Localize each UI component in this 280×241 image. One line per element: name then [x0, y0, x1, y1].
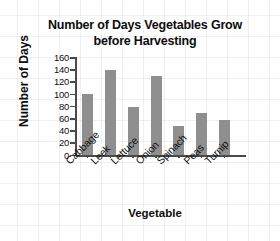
y-tick-label: 20 [59, 137, 69, 148]
x-axis-labels: Cabbage Leek Lettuce Onion Spinach Peas … [76, 158, 236, 204]
bar-slot [190, 58, 213, 155]
x-axis-title: Vegetable [60, 207, 250, 219]
chart-title-line-1: Number of Days Vegetables Grow [30, 17, 260, 33]
y-tick-label: 100 [54, 89, 69, 100]
y-tick-label: 80 [59, 101, 69, 112]
y-axis-title: Number of Days [17, 37, 31, 127]
y-tick-label: 140 [54, 64, 69, 75]
y-tick-label: 40 [59, 125, 69, 136]
chart-title: Number of Days Vegetables Grow before Ha… [30, 17, 260, 49]
y-tick-label: 60 [59, 113, 69, 124]
y-tick-label: 120 [54, 76, 69, 87]
bar-slot [99, 58, 122, 155]
chart-title-line-2: before Harvesting [30, 33, 260, 49]
bar-chart-figure: Number of Days Vegetables Grow before Ha… [0, 0, 280, 241]
y-tick-label: 160 [54, 52, 69, 63]
bar-leek [105, 70, 116, 155]
y-axis-ticks: 160 140 120 100 80 60 40 20 0 [49, 52, 76, 161]
